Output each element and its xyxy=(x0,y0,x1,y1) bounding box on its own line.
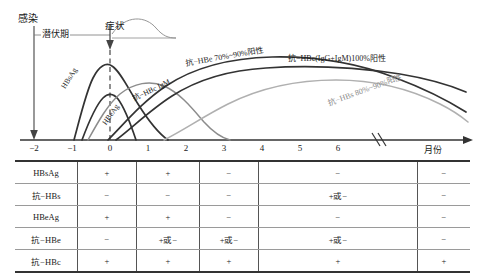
x-tick-6: 4 xyxy=(260,143,265,153)
table-cell: − xyxy=(78,228,137,250)
x-tick-7: 5 xyxy=(298,143,303,153)
table-cell: +或− xyxy=(137,228,200,250)
annotation-incubation: 潜伏期 xyxy=(41,30,70,39)
table-cell: − xyxy=(259,161,418,184)
x-tick-5: 3 xyxy=(222,143,227,153)
annotation-symptom: 症状 xyxy=(105,22,125,32)
table-row: HBeAg + + − − − xyxy=(15,206,470,228)
table-cell: +或− xyxy=(259,184,418,206)
x-axis-unit-label: 月份 xyxy=(424,143,442,156)
table-cell: + xyxy=(137,161,200,184)
x-tick-2: 0 xyxy=(108,143,113,153)
table-cell: − xyxy=(259,206,418,228)
table-cell: + xyxy=(418,250,471,273)
hbv-serology-figure: 感染 潜伏期 症状 HBsAg HBeAg 抗−HBc IgM 抗−HBe 70… xyxy=(0,0,485,280)
row-marker-label: 抗−HBe xyxy=(15,228,78,250)
table-cell: − xyxy=(418,161,471,184)
table-cell: − xyxy=(418,228,471,250)
x-tick-0: −2 xyxy=(29,143,39,153)
table-row: HBsAg + + − − − xyxy=(15,161,470,184)
table-cell: − xyxy=(200,161,259,184)
table-cell: − xyxy=(418,206,471,228)
curve-anti-hbc xyxy=(108,57,466,140)
serology-marker-table: HBsAg + + − − − 抗−HBs − − − +或− − HBeAg … xyxy=(15,160,470,273)
annotation-infection: 感染 xyxy=(18,14,38,24)
table-cell: +或− xyxy=(259,228,418,250)
table-cell: − xyxy=(200,184,259,206)
table-cell: − xyxy=(78,184,137,206)
table-cell: − xyxy=(137,184,200,206)
table-cell: − xyxy=(418,184,471,206)
table-row: 抗−HBs − − − +或− − xyxy=(15,184,470,206)
table-cell: + xyxy=(78,250,137,273)
table-cell: + xyxy=(200,250,259,273)
table-row: 抗−HBe − +或− +或− +或− − xyxy=(15,228,470,250)
curve-anti-hbe xyxy=(116,67,466,140)
x-tick-8: 6 xyxy=(336,143,341,153)
row-marker-label: HBsAg xyxy=(15,161,78,184)
table-cell: +或− xyxy=(200,228,259,250)
row-marker-label: HBeAg xyxy=(15,206,78,228)
table-cell: + xyxy=(78,161,137,184)
x-tick-1: −1 xyxy=(67,143,77,153)
row-marker-label: 抗−HBs xyxy=(15,184,78,206)
table-cell: + xyxy=(78,206,137,228)
row-marker-label: 抗−HBc xyxy=(15,250,78,273)
table-cell: + xyxy=(137,250,200,273)
table-row: 抗−HBc + + + + + xyxy=(15,250,470,273)
curve-label-anti-hbc: 抗−HBc(IgG+IgM)100%阳性 xyxy=(288,55,386,63)
x-tick-3: 1 xyxy=(146,143,151,153)
infection-marker-arrow xyxy=(30,26,38,140)
table-cell: + xyxy=(259,250,418,273)
table-cell: − xyxy=(200,206,259,228)
chart-area: 感染 潜伏期 症状 HBsAg HBeAg 抗−HBc IgM 抗−HBe 70… xyxy=(0,0,485,160)
table-cell: + xyxy=(137,206,200,228)
x-tick-4: 2 xyxy=(184,143,189,153)
